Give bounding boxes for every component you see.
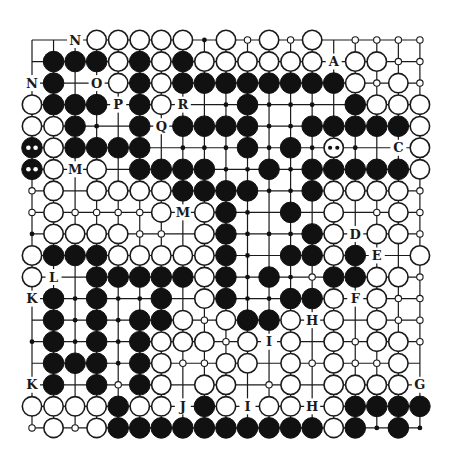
white-stone (152, 332, 171, 351)
black-stone (345, 245, 366, 266)
black-stone (302, 73, 323, 94)
white-stone (281, 332, 300, 351)
white-stone (152, 354, 171, 373)
white-stone (216, 52, 235, 71)
black-stone (259, 159, 280, 180)
black-stone (86, 331, 107, 352)
white-point-marker (417, 188, 423, 194)
white-stone (22, 397, 41, 416)
white-stone (324, 354, 343, 373)
marked-black-stone (22, 159, 43, 180)
white-stone (281, 397, 300, 416)
black-stone (345, 396, 366, 417)
point-label: P (113, 97, 123, 112)
black-stone (194, 418, 215, 439)
black-stone (345, 94, 366, 115)
white-stone (109, 30, 128, 49)
white-stone (152, 397, 171, 416)
black-stone (194, 159, 215, 180)
white-point-marker (417, 339, 423, 345)
white-stone (44, 138, 63, 157)
black-stone (216, 202, 237, 223)
black-stone (65, 137, 86, 158)
black-point-marker (267, 188, 272, 193)
white-stone (281, 310, 300, 329)
black-stone (129, 375, 150, 396)
white-stone (195, 375, 214, 394)
black-stone (302, 224, 323, 245)
white-stone (367, 52, 386, 71)
black-stone (280, 418, 301, 439)
black-stone (345, 159, 366, 180)
black-point-marker (288, 232, 293, 237)
white-stone (152, 246, 171, 265)
black-point-marker (288, 275, 293, 280)
white-stone (324, 289, 343, 308)
white-stone (324, 203, 343, 222)
black-stone (173, 159, 194, 180)
white-stone (44, 181, 63, 200)
white-point-marker (417, 317, 423, 323)
white-stone (44, 418, 63, 437)
white-stone (281, 354, 300, 373)
black-stone (43, 353, 64, 374)
black-stone (237, 418, 258, 439)
white-stone (130, 181, 149, 200)
white-point-marker (115, 382, 121, 388)
black-point-marker (116, 361, 121, 366)
black-stone (216, 116, 237, 137)
white-point-marker (115, 209, 121, 215)
white-stone (173, 310, 192, 329)
black-stone (259, 73, 280, 94)
black-stone (65, 245, 86, 266)
black-stone (108, 137, 129, 158)
black-stone (367, 396, 388, 417)
black-stone (173, 51, 194, 72)
black-stone (410, 396, 431, 417)
white-stone (44, 203, 63, 222)
black-point-marker (267, 296, 272, 301)
black-point-marker (374, 426, 379, 431)
white-point-marker (223, 339, 229, 345)
white-stone (238, 52, 257, 71)
black-stone (86, 51, 107, 72)
black-stone (86, 375, 107, 396)
go-board: NANOPRQCMMDELKFHIKGJIH (0, 0, 454, 470)
white-stone (238, 354, 257, 373)
white-stone (87, 397, 106, 416)
white-stone (152, 52, 171, 71)
black-point-marker (267, 232, 272, 237)
white-stone (324, 418, 343, 437)
white-stone (410, 117, 429, 136)
black-stone (22, 137, 43, 158)
white-stone (302, 52, 321, 71)
white-point-marker (417, 58, 423, 64)
black-stone (259, 310, 280, 331)
black-point-marker (73, 296, 78, 301)
white-point-marker (352, 360, 358, 366)
white-stone (367, 181, 386, 200)
black-point-marker (180, 145, 185, 150)
white-stone (152, 30, 171, 49)
white-point-marker (29, 188, 35, 194)
black-point-marker (418, 426, 423, 431)
black-stone (129, 116, 150, 137)
point-label: H (306, 399, 318, 414)
black-stone (194, 116, 215, 137)
white-stone (173, 246, 192, 265)
white-stone (216, 375, 235, 394)
black-stone (216, 418, 237, 439)
black-stone (65, 353, 86, 374)
black-point-marker (202, 38, 207, 43)
white-stone (324, 310, 343, 329)
black-stone (302, 116, 323, 137)
marked-black-stone (22, 137, 43, 158)
point-label: E (372, 248, 382, 263)
white-point-marker (374, 80, 380, 86)
black-stone (129, 73, 150, 94)
white-stone (87, 160, 106, 179)
black-stone (86, 353, 107, 374)
white-stone (324, 224, 343, 243)
mark-dot-icon (335, 146, 339, 150)
black-point-marker (137, 296, 142, 301)
